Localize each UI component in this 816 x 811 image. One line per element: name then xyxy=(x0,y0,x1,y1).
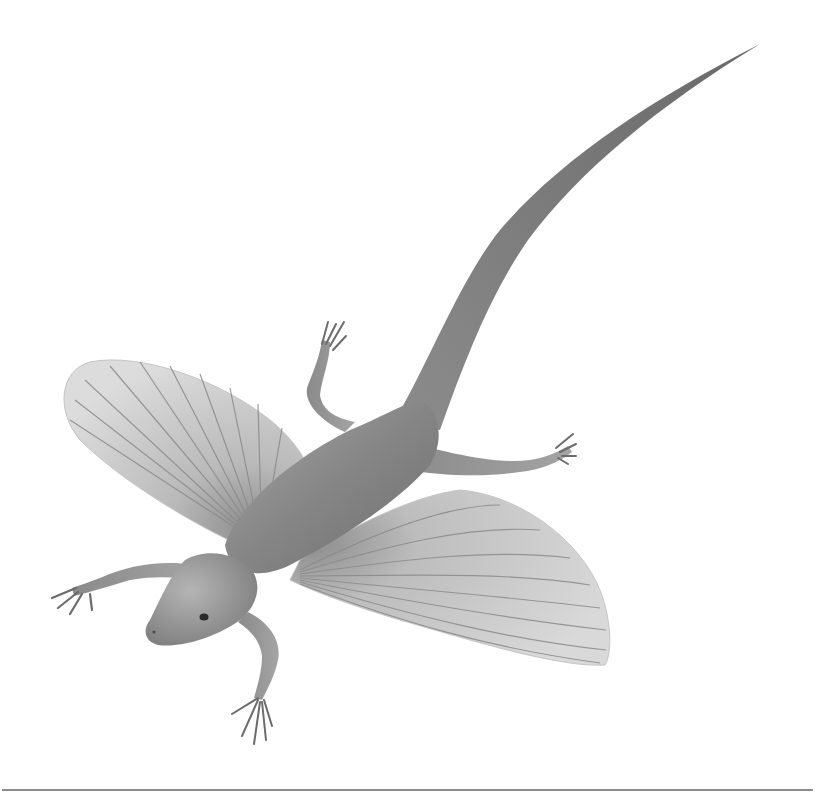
reptile-illustration xyxy=(0,0,816,811)
nostril xyxy=(153,631,156,634)
right-foreleg xyxy=(232,612,279,744)
tail xyxy=(395,44,760,430)
eye xyxy=(200,614,209,621)
left-hindleg xyxy=(307,322,355,432)
footer-rule xyxy=(2,789,813,791)
